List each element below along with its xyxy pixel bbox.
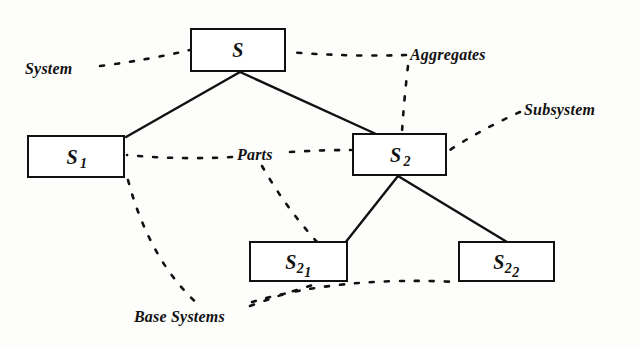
edge-s2-to-s21: [345, 176, 398, 243]
node-s22[interactable]: S22: [458, 241, 555, 282]
node-s22-label: S22: [493, 252, 520, 272]
dash-parts-to-s1: [127, 155, 232, 158]
node-s-label: S: [232, 40, 244, 60]
dash-system-to-s: [100, 50, 190, 66]
annotation-base-systems: Base Systems: [134, 308, 225, 326]
node-s2-label: S2: [390, 145, 409, 165]
annotation-parts: Parts: [237, 146, 273, 164]
edge-s-to-s1: [126, 72, 240, 137]
hierarchy-diagram: S S1 S2 S21 S22 System Aggregates Subsys…: [0, 0, 639, 348]
node-s2[interactable]: S2: [352, 133, 447, 176]
node-s21-label: S21: [285, 252, 312, 272]
node-s[interactable]: S: [190, 28, 286, 72]
annotation-subsystem: Subsystem: [524, 101, 595, 119]
dash-parts-to-s2: [290, 150, 351, 152]
dash-subsystem-to-s2: [450, 112, 520, 150]
dash-parts-to-s21: [262, 166, 318, 243]
annotation-aggregates: Aggregates: [410, 46, 486, 64]
edge-s2-to-s22: [398, 176, 507, 242]
dash-aggregates-to-s2: [402, 66, 408, 132]
dash-base-to-s22: [252, 281, 458, 302]
annotation-system: System: [25, 60, 72, 78]
dash-base-to-s1: [128, 180, 200, 306]
node-s21[interactable]: S21: [249, 241, 348, 282]
dash-aggregates-to-s: [288, 52, 406, 56]
node-s1-label: S1: [66, 147, 85, 167]
edge-s-to-s2: [240, 72, 376, 134]
node-s1[interactable]: S1: [27, 135, 125, 178]
